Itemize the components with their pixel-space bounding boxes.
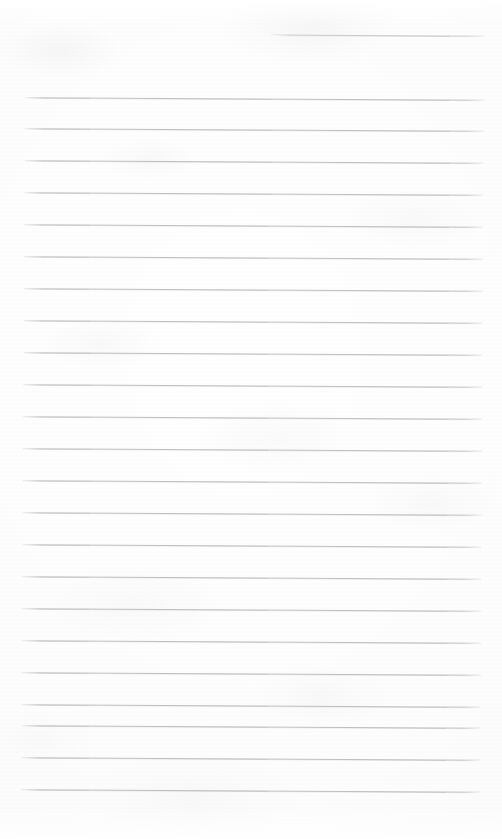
ruled-line [22,725,480,729]
ruled-line [22,672,480,676]
ruled-line [25,192,483,196]
ruled-line [25,224,483,228]
ruled-line-partial [272,35,484,37]
ruled-line [25,256,483,260]
ruled-line [23,480,481,484]
ruled-line [22,789,480,793]
ruled-line [24,352,482,356]
page-bottom-edge-highlight [0,805,502,839]
ruled-line [22,757,480,761]
ruled-lines-group [0,0,502,839]
ruled-line [25,160,483,164]
ruled-line [23,576,481,580]
ruled-line [23,512,481,516]
ruled-line [24,288,482,292]
ruled-line [24,384,482,388]
ruled-line [23,544,481,548]
ruled-line [22,640,480,644]
ruled-line [25,128,483,132]
ruled-line [24,416,482,420]
page-top-edge-highlight [0,0,502,26]
ruled-line [23,608,481,612]
ruled-line [25,97,483,101]
ruled-line [23,448,481,452]
ruled-line [22,704,480,708]
scanned-page [0,0,502,839]
ruled-line [24,320,482,324]
